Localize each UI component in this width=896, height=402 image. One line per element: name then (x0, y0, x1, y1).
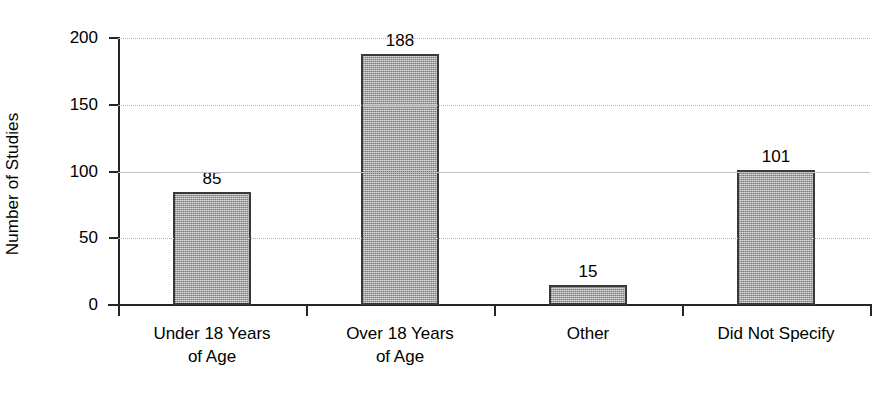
x-axis-category-label: Other (488, 322, 688, 345)
bar (173, 192, 251, 305)
y-axis-tick (109, 37, 118, 39)
y-axis-tick-label: 200 (38, 29, 98, 46)
x-axis-tick (682, 305, 684, 316)
x-axis-tick (306, 305, 308, 316)
x-axis-tick (870, 305, 872, 316)
bar (549, 285, 627, 305)
gridline (118, 238, 870, 239)
x-axis-category-label: Over 18 Yearsof Age (300, 322, 500, 368)
y-axis-tick-label: 100 (38, 163, 98, 180)
y-axis-tick (109, 237, 118, 239)
bar-value-label: 101 (726, 148, 826, 165)
y-axis-tick-label: 50 (38, 229, 98, 246)
bar-value-label: 188 (350, 32, 450, 49)
y-axis-tick (109, 104, 118, 106)
x-axis-tick (118, 305, 120, 316)
y-axis-tick (109, 171, 118, 173)
gridline (118, 172, 870, 173)
x-axis-category-label: Did Not Specify (676, 322, 876, 345)
x-axis-tick (494, 305, 496, 316)
bar-chart: Number of Studies 050100150200 851881510… (0, 0, 896, 402)
gridline (118, 38, 870, 39)
x-axis-category-label: Under 18 Yearsof Age (112, 322, 312, 368)
y-axis-tick-label: 150 (38, 96, 98, 113)
gridline (118, 105, 870, 106)
bar-value-label: 15 (538, 263, 638, 280)
y-axis-tick-label: 0 (38, 296, 98, 313)
bar (361, 54, 439, 305)
y-axis-title: Number of Studies (0, 34, 26, 334)
